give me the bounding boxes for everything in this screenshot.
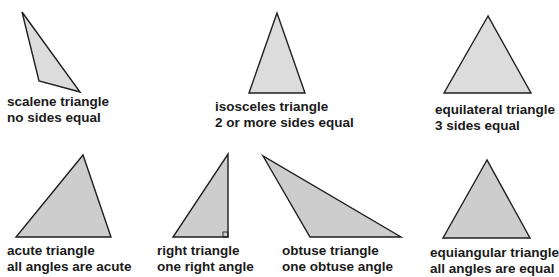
equilateral-triangle-shape — [444, 16, 531, 93]
acute-triangle-shape — [16, 155, 111, 237]
isosceles-property: 2 or more sides equal — [215, 115, 354, 131]
right-property: one right angle — [157, 259, 254, 275]
acute-name: acute triangle — [7, 243, 132, 259]
equilateral-property: 3 sides equal — [435, 118, 555, 134]
acute-label: acute triangle all angles are acute — [7, 243, 132, 275]
equiangular-name: equiangular triangle — [430, 245, 559, 261]
scalene-label: scalene triangle no sides equal — [7, 94, 109, 126]
right-name: right triangle — [157, 243, 254, 259]
right-label: right triangle one right angle — [157, 243, 254, 275]
acute-property: all angles are acute — [7, 259, 132, 275]
right-triangle-shape — [173, 154, 228, 237]
isosceles-label: isosceles triangle 2 or more sides equal — [215, 99, 354, 131]
equilateral-label: equilateral triangle 3 sides equal — [435, 102, 555, 134]
equilateral-name: equilateral triangle — [435, 102, 555, 118]
equiangular-label: equiangular triangle all angles are equa… — [430, 245, 559, 277]
isosceles-name: isosceles triangle — [215, 99, 354, 115]
obtuse-triangle-shape — [263, 156, 401, 237]
obtuse-property: one obtuse angle — [282, 259, 393, 275]
obtuse-name: obtuse triangle — [282, 243, 393, 259]
scalene-property: no sides equal — [7, 110, 109, 126]
equiangular-triangle-shape — [443, 160, 530, 238]
obtuse-label: obtuse triangle one obtuse angle — [282, 243, 393, 275]
scalene-name: scalene triangle — [7, 94, 109, 110]
scalene-triangle-shape — [22, 12, 80, 92]
isosceles-triangle-shape — [249, 13, 305, 93]
equiangular-property: all angles are equal — [430, 261, 559, 277]
